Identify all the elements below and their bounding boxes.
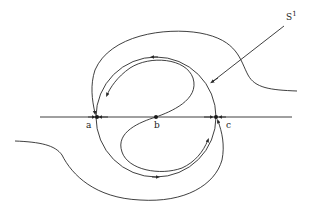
point-c xyxy=(214,115,218,119)
label-c: c xyxy=(226,120,231,130)
point-a xyxy=(95,115,99,119)
s1-leader-line xyxy=(212,26,284,82)
inner-spiral-lower xyxy=(121,117,208,171)
outer-curve-lower xyxy=(15,121,223,200)
label-a: a xyxy=(86,120,91,130)
point-b xyxy=(154,115,158,119)
label-b: b xyxy=(154,120,160,130)
outer-curve-upper xyxy=(92,31,297,113)
phase-portrait-diagram xyxy=(0,0,312,212)
label-s1: S1 xyxy=(286,10,297,22)
label-s1-sup: 1 xyxy=(292,10,296,18)
s1-leader-arrow xyxy=(212,78,218,82)
